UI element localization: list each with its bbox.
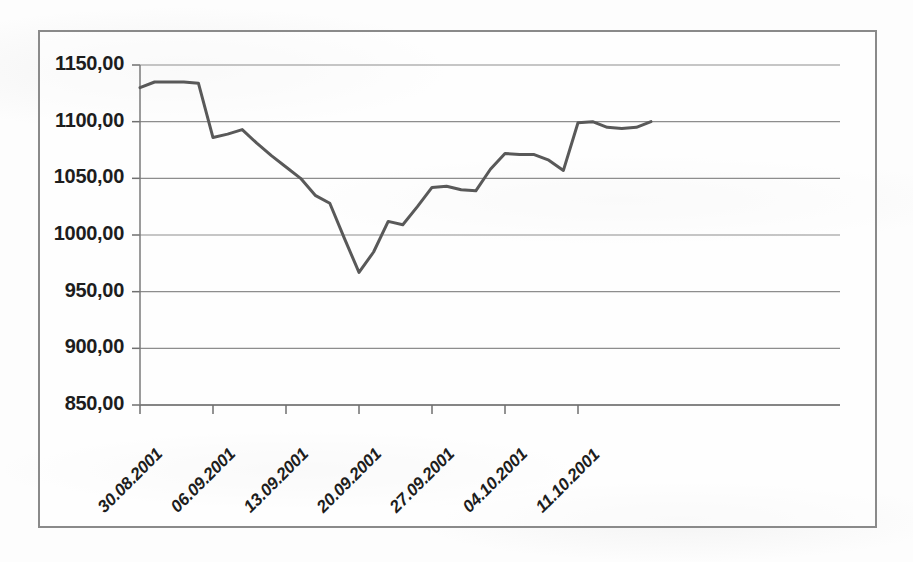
y-tick-label: 950,00	[14, 279, 124, 302]
y-tick-label: 1000,00	[14, 222, 124, 245]
gridlines-group	[140, 65, 840, 405]
chart-plot-area: 1150,001100,001050,001000,00950,00900,00…	[0, 0, 913, 562]
y-tick-label: 1050,00	[14, 165, 124, 188]
y-tick-label: 850,00	[14, 392, 124, 415]
y-tick-label: 900,00	[14, 335, 124, 358]
y-tick-label: 1100,00	[14, 109, 124, 132]
x-tick-marks-group	[140, 405, 840, 414]
y-tick-label: 1150,00	[14, 52, 124, 75]
y-tick-marks-group	[132, 65, 140, 405]
data-series-line	[140, 82, 651, 272]
